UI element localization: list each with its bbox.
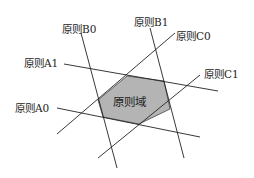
label-c0: 原则C0 [176,30,211,42]
label-b0: 原则B0 [62,23,96,35]
label-a0: 原则A0 [15,102,49,114]
region-label: 原则域 [113,95,147,109]
label-b1: 原则B1 [134,16,168,28]
label-a1: 原则A1 [24,57,58,69]
principle-domain-diagram: 原则B0 原则B1 原则C0 原则A1 原则C1 原则A0 原则域 [0,0,254,178]
label-c1: 原则C1 [204,68,239,80]
